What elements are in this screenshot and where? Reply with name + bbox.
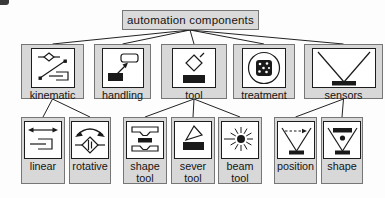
treatment-icon: [243, 49, 285, 87]
node-label: beam tool: [219, 161, 261, 184]
beam-tool-icon: [222, 122, 258, 158]
node-tool: tool: [161, 44, 227, 99]
node-rotative: rotative: [69, 117, 111, 184]
shape-tool-icon: [127, 122, 163, 158]
node-treatment: treatment: [233, 44, 295, 99]
node-position-sensor: position: [274, 117, 317, 184]
sever-tool-icon: [175, 122, 211, 158]
node-kinematic: kinematic: [21, 44, 84, 99]
node-label: sensors: [325, 90, 363, 102]
linear-icon: [25, 122, 61, 158]
node-label: position: [277, 161, 314, 173]
node-label: shape: [327, 161, 356, 173]
position-sensor-icon: [278, 122, 314, 158]
node-sensors: sensors: [304, 44, 383, 99]
node-label: treatment: [241, 90, 287, 102]
node-handling: handling: [94, 44, 151, 99]
node-label: handling: [102, 90, 143, 102]
node-root: automation components: [122, 10, 259, 30]
sensors-icon: [313, 49, 375, 87]
node-beam-tool: beam tool: [218, 117, 262, 184]
scan-artifact: [0, 0, 9, 5]
shape-sensor-icon: [324, 122, 360, 158]
root-label: automation components: [127, 14, 254, 26]
rotative-icon: [72, 122, 108, 158]
node-label: tool: [185, 90, 202, 102]
node-label: linear: [30, 161, 56, 173]
node-shape-tool: shape tool: [123, 117, 167, 184]
kinematic-icon: [32, 49, 74, 87]
node-sever-tool: sever tool: [171, 117, 215, 184]
node-label: shape tool: [124, 161, 166, 184]
node-shape-sensor: shape: [321, 117, 363, 184]
node-label: kinematic: [30, 90, 76, 102]
node-linear: linear: [21, 117, 65, 184]
tool-icon: [173, 49, 215, 87]
node-label: rotative: [72, 161, 107, 173]
diagram-canvas: automation components kinematic: [0, 0, 385, 198]
node-label: sever tool: [172, 161, 214, 184]
handling-icon: [103, 49, 143, 87]
